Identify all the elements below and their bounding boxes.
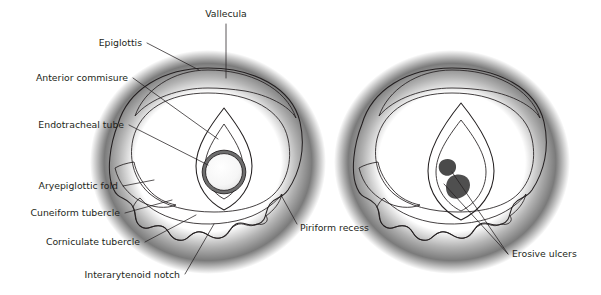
laryngoscopy-figure: Vallecula Epiglottis Anterior commisure …	[0, 0, 601, 295]
right-larynx-panel	[334, 50, 570, 274]
label-piriform-recess: Piriform recess	[300, 222, 369, 233]
label-cuneiform-tubercle: Cuneiform tubercle	[31, 207, 121, 218]
label-corniculate-tubercle: Corniculate tubercle	[46, 236, 140, 247]
label-epiglottis: Epiglottis	[99, 37, 142, 48]
label-vallecula: Vallecula	[205, 8, 247, 19]
label-anterior-commisure: Anterior commisure	[36, 72, 128, 83]
laryngoscopy-illustration: Vallecula Epiglottis Anterior commisure …	[0, 0, 601, 295]
label-aryepiglottic-fold: Aryepiglottic fold	[39, 180, 119, 191]
label-erosive-ulcers: Erosive ulcers	[512, 248, 577, 259]
label-endotracheal-tube: Endotracheal tube	[38, 119, 124, 130]
label-interarytenoid-notch: Interarytenoid notch	[85, 269, 181, 280]
endotracheal-tube-lumen	[206, 154, 243, 191]
